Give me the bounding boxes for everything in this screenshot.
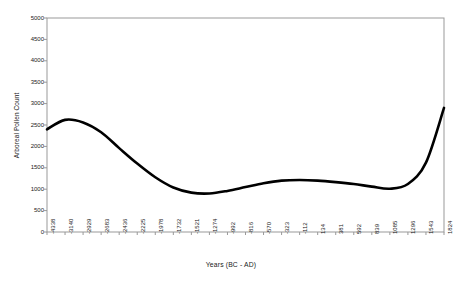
x-tick-label: -2929 xyxy=(86,194,92,234)
x-tick-label: 1543 xyxy=(428,194,434,234)
x-axis-title: Years (BC - AD) xyxy=(0,261,462,268)
x-tick-label: 1085 xyxy=(392,194,398,234)
x-tick-label: -1978 xyxy=(158,194,164,234)
x-tick-label: -3140 xyxy=(68,194,74,234)
x-tick-label: 1824 xyxy=(447,194,453,234)
x-tick-label: -4338 xyxy=(50,194,56,234)
x-tick-label: -2683 xyxy=(104,194,110,234)
x-tick-label: -570 xyxy=(266,194,272,234)
x-tick-label: -1521 xyxy=(194,194,200,234)
x-tick-label: -2225 xyxy=(140,194,146,234)
x-tick-label: -816 xyxy=(248,194,254,234)
x-tick-label: -112 xyxy=(302,194,308,234)
x-tick-label: -1732 xyxy=(176,194,182,234)
x-tick-label: 134 xyxy=(320,194,326,234)
x-tick-label: 592 xyxy=(356,194,362,234)
x-tick-label: -1274 xyxy=(212,194,218,234)
x-tick-label: 839 xyxy=(374,194,380,234)
x-tick-label: 381 xyxy=(338,194,344,234)
chart-container: Arboreal Pollen Count 050010001500200025… xyxy=(0,0,462,281)
x-tick-label: 1296 xyxy=(410,194,416,234)
x-tick-label: -2436 xyxy=(122,194,128,234)
x-tick-label: -323 xyxy=(284,194,290,234)
x-tick-label: -992 xyxy=(230,194,236,234)
x-axis-ticks: -4338-3140-2929-2683-2436-2225-1978-1732… xyxy=(0,234,462,274)
